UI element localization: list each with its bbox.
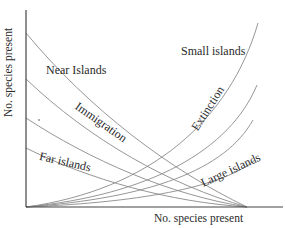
y-axis-label: No. species present: [2, 28, 14, 117]
island-biogeography-chart: [0, 0, 285, 228]
small-islands-label: Small islands: [181, 45, 245, 57]
stray-dot: [38, 119, 40, 121]
near-islands-label: Near Islands: [46, 64, 106, 76]
extinction-curve-5: [26, 85, 257, 207]
x-axis-label: No. species present: [154, 213, 243, 225]
